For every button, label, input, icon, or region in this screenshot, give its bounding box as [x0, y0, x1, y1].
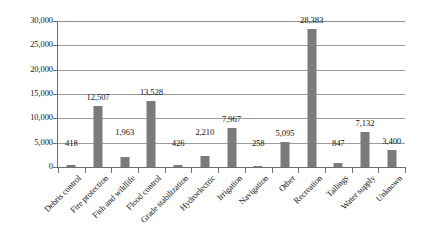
bar-value-label: 7,967 [222, 114, 241, 124]
bar-value-label: 7,132 [356, 118, 375, 128]
gridline [58, 94, 405, 95]
y-axis-tick-label: 10,000 [0, 113, 53, 122]
bar-value-label: 847 [332, 138, 345, 148]
y-axis-tick-label: 30,000 [0, 16, 53, 25]
bar [360, 132, 369, 167]
x-axis-category-labels: Debris controlFire protectionFish and wi… [0, 167, 421, 245]
bar [147, 101, 156, 167]
bar-value-label: 426 [172, 138, 185, 148]
x-axis-category-label: Other [276, 173, 297, 194]
bar-value-label: 258 [252, 138, 265, 148]
bar [307, 29, 316, 167]
y-axis-tick-label: 25,000 [0, 40, 53, 49]
bar-value-label: 5,095 [275, 128, 294, 138]
bar [280, 142, 289, 167]
bar-value-label: 1,963 [115, 127, 134, 137]
y-axis-tick-label: 20,000 [0, 65, 53, 74]
x-axis-category-label: Unknown [373, 173, 404, 204]
bar-value-label: 13,528 [140, 87, 163, 97]
gridline [58, 45, 405, 46]
bar [227, 128, 236, 167]
plot-area [58, 21, 405, 167]
bar [387, 150, 396, 167]
bar [200, 156, 209, 167]
bar [94, 106, 103, 167]
y-axis-tick-label: 15,000 [0, 89, 53, 98]
y-axis-tick-label: 5,000 [0, 138, 53, 147]
bar-value-label: 2,210 [195, 127, 214, 137]
gridline [58, 70, 405, 71]
bar [120, 157, 129, 167]
bar-value-label: 3,400 [382, 136, 401, 146]
bar-chart: 05,00010,00015,00020,00025,00030,000 418… [0, 0, 421, 245]
gridline [58, 21, 405, 22]
bar-value-label: 12,507 [87, 92, 110, 102]
bar-value-label: 418 [65, 138, 78, 148]
bar-value-label: 28,383 [300, 15, 323, 25]
